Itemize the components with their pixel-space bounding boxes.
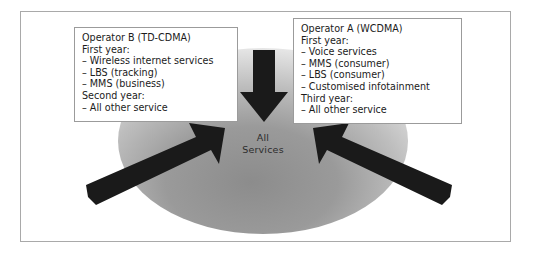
operator-b-group-0-item-1: – LBS (tracking) xyxy=(82,67,231,79)
operator-b-box: Operator B (TD-CDMA) First year: – Wirel… xyxy=(74,27,238,122)
operator-a-group-0-item-3: – Customised infotainment xyxy=(301,81,455,93)
operator-b-group-1-item-0: – All other service xyxy=(82,102,231,114)
operator-b-group-0-item-0: – Wireless internet services xyxy=(82,55,231,67)
operator-a-title: Operator A (WCDMA) xyxy=(301,23,455,35)
operator-b-group-0-heading: First year: xyxy=(82,44,231,56)
diagram-canvas: All Services Operator B (TD-CDMA) First … xyxy=(0,0,533,253)
operator-a-group-0-item-2: – LBS (consumer) xyxy=(301,69,455,81)
operator-a-group-0-item-0: – Voice services xyxy=(301,46,455,58)
operator-a-group-0-item-1: – MMS (consumer) xyxy=(301,58,455,70)
operator-b-title: Operator B (TD-CDMA) xyxy=(82,32,231,44)
operator-a-group-1-item-0: – All other service xyxy=(301,104,455,116)
operator-b-group-0-item-2: – MMS (business) xyxy=(82,78,231,90)
operator-b-group-1-heading: Second year: xyxy=(82,90,231,102)
operator-a-group-0-heading: First year: xyxy=(301,35,455,47)
operator-a-group-1-heading: Third year: xyxy=(301,93,455,105)
diagram-stage: All Services Operator B (TD-CDMA) First … xyxy=(0,0,533,253)
operator-a-box: Operator A (WCDMA) First year: – Voice s… xyxy=(293,18,462,124)
